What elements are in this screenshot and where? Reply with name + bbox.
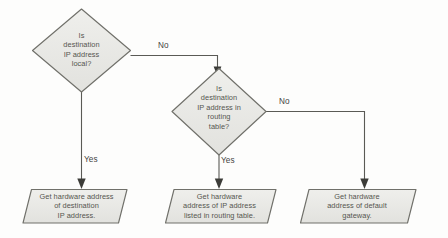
process-routing-table-shape — [166, 190, 277, 224]
decision-local-shape — [33, 9, 131, 92]
flowchart-canvas: Is destination IP address local? Is dest… — [0, 0, 448, 238]
edge-local-yes — [77, 92, 85, 189]
edge-label-routing-no: No — [279, 97, 290, 107]
edge-label-routing-yes: Yes — [221, 156, 235, 166]
process-default-gateway-shape — [301, 190, 417, 224]
decision-routing-table-shape — [172, 69, 266, 156]
flowchart-graphics — [0, 0, 448, 238]
edge-label-local-no: No — [158, 41, 169, 51]
edge-routing-no — [266, 112, 369, 190]
edge-local-no — [131, 56, 222, 77]
edge-label-local-yes: Yes — [84, 155, 98, 165]
process-destination-shape — [23, 190, 127, 224]
